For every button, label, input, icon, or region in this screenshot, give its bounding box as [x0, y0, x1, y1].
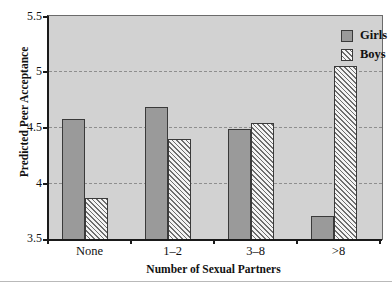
y-tick-label-5: 5	[18, 64, 42, 79]
y-tick-4	[43, 183, 49, 185]
bar-chart-figure: Predicted Peer Acceptance 5.5 5 4.5 4 3.…	[0, 0, 392, 284]
y-tick-5.5	[43, 16, 49, 18]
bar-boys-gt8	[334, 66, 357, 240]
bar-boys-none	[85, 198, 108, 240]
legend-swatch-girls-icon	[341, 30, 353, 42]
legend: Girls Boys	[338, 24, 391, 66]
page-divider	[0, 281, 392, 282]
plot-area: Girls Boys	[47, 15, 383, 240]
y-tick-label-4.5: 4.5	[18, 120, 42, 135]
x-tick-label-1-2: 1–2	[131, 244, 214, 259]
gridline-4.5	[49, 127, 382, 128]
y-tick-label-4: 4	[18, 176, 42, 191]
x-tick-label-none: None	[48, 244, 131, 259]
bar-boys-1-2	[168, 139, 191, 241]
x-tick-label-3-8: 3–8	[214, 244, 297, 259]
y-tick-5	[43, 71, 49, 73]
y-tick-4.5	[43, 127, 49, 129]
y-axis-title: Predicted Peer Acceptance	[18, 22, 30, 202]
bar-girls-3-8	[228, 129, 251, 241]
x-axis-title: Number of Sexual Partners	[47, 263, 380, 275]
legend-label-boys: Boys	[360, 48, 386, 61]
gridline-4	[49, 183, 382, 184]
gridline-5	[49, 71, 382, 72]
legend-label-girls: Girls	[360, 29, 387, 42]
legend-item-girls: Girls	[341, 26, 387, 45]
legend-swatch-boys-icon	[341, 49, 353, 61]
plot-inner	[49, 16, 382, 240]
bar-girls-1-2	[145, 107, 168, 240]
bar-boys-3-8	[251, 123, 274, 240]
y-tick-label-3.5: 3.5	[18, 231, 42, 246]
legend-item-boys: Boys	[341, 45, 387, 64]
x-tick-label-gt8: >8	[297, 244, 380, 259]
bar-girls-gt8	[311, 216, 334, 241]
y-tick-label-5.5: 5.5	[18, 9, 42, 24]
bar-girls-none	[62, 119, 85, 241]
